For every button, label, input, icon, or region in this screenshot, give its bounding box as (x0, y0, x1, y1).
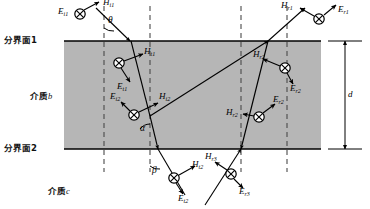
dimension-d-label: d (348, 89, 353, 99)
label-H-t1: Ht1 (144, 47, 155, 56)
label-H-r1: Hr1 (281, 1, 293, 10)
label-H-r3: Hr3 (205, 152, 217, 161)
interface-1-label: 分界面1 (4, 33, 37, 45)
label-E-i1: Ei1 (58, 7, 68, 16)
node-reflected-3 (215, 162, 243, 188)
medium-b-label: 介质b (30, 89, 52, 101)
node-incident-1 (75, 2, 99, 19)
figure-canvas: 分界面1 分界面2 介质b 介质c θ α β Ei1 Hi1 Hr1 Er1 … (0, 0, 370, 209)
label-E-t1: Et1 (117, 82, 127, 91)
dimension-d (328, 41, 362, 149)
interface-2-label: 分界面2 (4, 141, 37, 153)
ray-incident-1 (96, 8, 130, 41)
medium-c-symbol: c (66, 186, 70, 196)
node-reflected-1 (300, 5, 336, 24)
label-H-i1: Hi1 (103, 0, 114, 7)
medium-b-symbol: b (48, 91, 52, 101)
label-E-r1: Er1 (338, 5, 349, 14)
ray-diagram-svg (0, 0, 370, 209)
angle-beta-label: β (152, 166, 157, 176)
label-H-i2: Hi2 (159, 92, 170, 101)
medium-c-label: 介质c (48, 184, 70, 196)
label-E-r2-lower: Er2 (273, 95, 284, 104)
label-E-r2-upper: Er2 (290, 84, 301, 93)
angle-theta-label: θ (108, 16, 113, 26)
label-H-r2-upper: Hr2 (253, 50, 265, 59)
label-E-t2: Et2 (178, 194, 188, 203)
label-E-i2: Ei2 (110, 92, 120, 101)
label-H-t2: Ht2 (192, 160, 203, 169)
label-H-r2-lower: Hr2 (226, 108, 238, 117)
arc-theta (104, 28, 114, 31)
ray-transmitted-2 (158, 149, 185, 195)
angle-alpha-label: α (140, 124, 145, 134)
label-E-r3: Er3 (239, 187, 250, 196)
